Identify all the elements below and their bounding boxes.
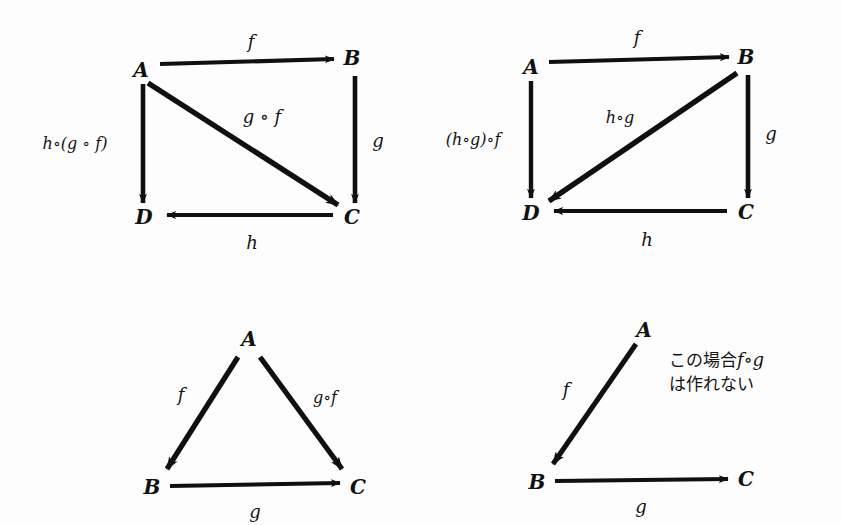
arrow-bl-g-after-f xyxy=(260,357,342,469)
japanese-note-line1-prefix: この場合 xyxy=(669,350,737,370)
edge-label-tr-g: g xyxy=(765,125,777,143)
arrow-tr-f xyxy=(549,57,729,62)
node-br-A: A xyxy=(636,320,652,340)
arrow-layer xyxy=(0,0,841,525)
node-bl-A: A xyxy=(241,329,257,349)
node-tr-D: D xyxy=(522,203,539,223)
edge-label-tr-h: h xyxy=(641,231,653,249)
node-tr-B: B xyxy=(738,47,755,67)
node-tr-A: A xyxy=(523,57,539,77)
arrow-br-f xyxy=(553,344,636,464)
arrow-tl-g-after-f xyxy=(148,83,338,205)
arrow-tl-f xyxy=(160,59,334,64)
edge-label-tl-h: h xyxy=(246,234,258,252)
japanese-note-line1: この場合f∘g xyxy=(669,348,764,373)
edge-label-br-f: f xyxy=(563,381,570,399)
node-br-B: B xyxy=(529,472,546,492)
edge-label-tl-g: g xyxy=(372,132,384,150)
edge-label-tl-g-after-f: g ∘ f xyxy=(243,108,281,126)
edge-label-bl-f: f xyxy=(178,386,185,404)
diagram-page: A B C D f g h g ∘ f h∘(g ∘ f) A B C D f … xyxy=(0,0,841,525)
node-bl-C: C xyxy=(350,477,366,497)
arrow-bl-f xyxy=(167,357,238,469)
japanese-note-line1-math: f∘g xyxy=(737,349,764,370)
edge-label-tl-f: f xyxy=(248,33,255,51)
node-br-C: C xyxy=(738,469,754,489)
edge-label-tr-h-after-g: h∘g xyxy=(606,110,634,126)
japanese-note-line2: は作れない xyxy=(669,373,764,396)
node-bl-B: B xyxy=(144,477,161,497)
edge-label-br-g: g xyxy=(635,498,647,516)
node-tl-C: C xyxy=(344,207,360,227)
node-tl-D: D xyxy=(135,207,152,227)
arrow-tr-h-after-g xyxy=(549,73,737,201)
edge-label-bl-g: g xyxy=(249,503,261,521)
edge-label-tr-f: f xyxy=(634,29,641,47)
node-tl-A: A xyxy=(133,60,149,80)
node-tl-B: B xyxy=(344,48,361,68)
japanese-note: この場合f∘g は作れない xyxy=(669,348,764,396)
edge-label-tl-h-after-gf: h∘(g ∘ f) xyxy=(43,136,108,152)
edge-label-tr-hg-after-f: (h∘g)∘f xyxy=(446,132,501,148)
arrow-br-g xyxy=(555,479,728,481)
node-tr-C: C xyxy=(738,202,754,222)
edge-label-bl-g-after-f: g∘f xyxy=(313,390,337,406)
arrow-bl-g xyxy=(170,483,340,486)
